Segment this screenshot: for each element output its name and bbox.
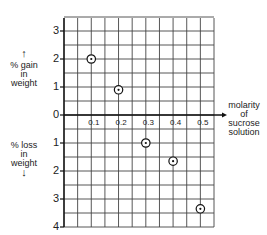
y-tick-gain: 3 (53, 24, 59, 36)
y-tick-gain: 1 (53, 80, 59, 92)
x-tick: 0.1 (88, 118, 99, 127)
x-tick: 0.4 (170, 118, 181, 127)
y-tick-gain: 2 (53, 52, 59, 64)
x-tick: 0.2 (116, 118, 127, 127)
arrow-down-icon: ↓ (14, 168, 34, 177)
x-label-line4: solution (222, 128, 266, 137)
y-tick-loss: 2 (53, 164, 59, 176)
y-label-gain-line3: weight (2, 79, 46, 88)
y-tick-gain: 0 (53, 108, 59, 120)
y-tick-loss: 3 (53, 192, 59, 204)
y-tick-loss: 1 (53, 136, 59, 148)
y-tick-loss: 4 (53, 220, 59, 232)
x-axis-label: molarity of sucrose solution (222, 101, 266, 137)
x-tick: 0.3 (143, 118, 154, 127)
arrow-up-icon: ↑ (14, 49, 34, 58)
y-label-loss: % loss in weight (2, 141, 46, 168)
x-tick: 0.5 (197, 118, 208, 127)
y-label-gain: % gain in weight (2, 61, 46, 88)
